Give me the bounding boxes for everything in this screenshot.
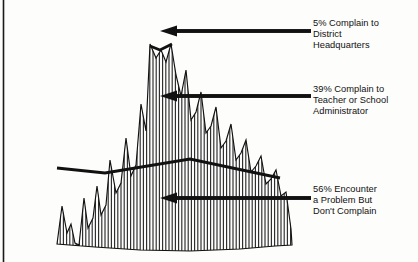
complaint-funnel-chart: [0, 0, 418, 262]
callout-arrow-shaft-1: [177, 94, 311, 98]
callout-arrow-shaft-2: [177, 196, 311, 200]
chart-background: [0, 0, 418, 262]
callout-arrow-shaft-0: [177, 29, 311, 33]
